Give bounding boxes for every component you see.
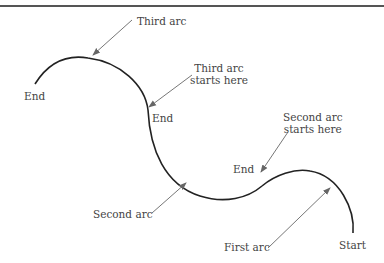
third-arc-starts-label: Third arc starts here [190,62,248,86]
second-arc-starts-line1: Second arc [283,111,343,123]
second-arc-starts-label: Second arc starts here [283,111,343,135]
third-arc-starts-line1: Third arc [190,62,248,74]
third-arc-arrow [93,20,132,55]
second-arc-starts-line2: starts here [283,123,343,135]
third-arc-starts-line2: starts here [190,74,248,86]
first-arc-curve [262,170,353,233]
end-mid-label: End [152,112,173,124]
second-arc-label: Second arc [93,208,153,220]
second-arc-arrow [152,183,186,213]
third-arc-label: Third arc [137,15,186,27]
start-label: Start [339,239,366,251]
end-right-label: End [233,163,254,175]
third-arc-start-arrow [149,75,192,107]
first-arc-arrow [268,188,330,248]
third-arc-curve [35,57,148,110]
second-arc-start-arrow [261,132,288,172]
first-arc-label: First arc [224,241,270,253]
end-left-label: End [24,90,45,102]
